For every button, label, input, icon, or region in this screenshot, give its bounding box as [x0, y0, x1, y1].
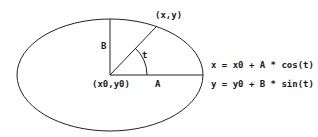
label-semi-major: A — [155, 79, 161, 89]
radius-line — [110, 27, 156, 75]
ellipse-diagram: (x,y) B t (x0,y0) A x = x0 + A * cos(t) … — [0, 0, 318, 137]
label-semi-minor: B — [101, 41, 107, 51]
label-point: (x,y) — [155, 10, 182, 20]
label-center: (x0,y0) — [92, 79, 130, 89]
equation-y: y = y0 + B * sin(t) — [211, 79, 314, 89]
equation-x: x = x0 + A * cos(t) — [211, 60, 314, 70]
label-angle: t — [142, 50, 147, 60]
